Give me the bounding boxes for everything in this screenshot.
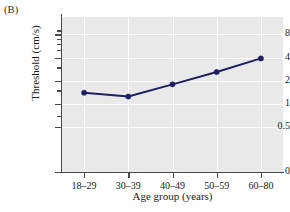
y-tick-major (55, 172, 61, 173)
gridline-vertical (217, 17, 218, 172)
gridline-vertical (261, 17, 262, 172)
x-tick (261, 172, 262, 178)
x-tick (217, 172, 218, 178)
y-axis-title: Threshold (cm/s) (29, 0, 41, 133)
y-tick-major (55, 127, 61, 128)
y-tick-major (55, 34, 61, 35)
y-tick-minor (57, 116, 61, 117)
y-tick-label: 0.5 (242, 120, 290, 131)
y-tick-major (55, 104, 61, 105)
y-axis-line (61, 14, 62, 173)
x-tick (173, 172, 174, 178)
gridline-vertical (84, 17, 85, 172)
gridline-vertical (173, 17, 174, 172)
y-tick-minor (57, 39, 61, 40)
y-tick-minor (57, 67, 61, 68)
x-tick (84, 172, 85, 178)
plot-area (62, 17, 283, 172)
y-tick-minor (57, 90, 61, 91)
x-tick (128, 172, 129, 178)
y-tick-label: 0 (242, 165, 290, 176)
figure-panel-b: (B) Threshold (cm/s) 84210.50 18–2930–39… (0, 0, 290, 212)
y-tick-minor (57, 50, 61, 51)
y-tick-label: 2 (242, 74, 290, 85)
y-tick-major (55, 81, 61, 82)
y-tick-minor (57, 44, 61, 45)
panel-label: (B) (4, 4, 18, 15)
x-axis-title: Age group (years) (62, 190, 283, 202)
y-tick-label: 4 (242, 51, 290, 62)
y-tick-label: 1 (242, 97, 290, 108)
gridline-vertical (128, 17, 129, 172)
y-tick-major (55, 58, 61, 59)
y-tick-label: 8 (242, 27, 290, 38)
y-tick-minor (57, 30, 61, 31)
